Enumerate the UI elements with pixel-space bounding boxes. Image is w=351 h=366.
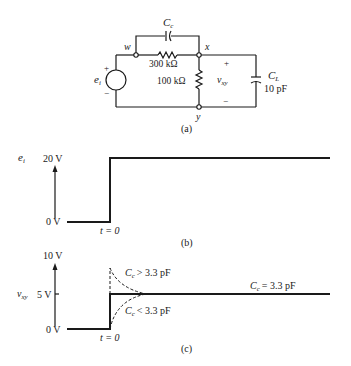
cl-value: 10 pF — [264, 83, 288, 94]
source-plus: + — [104, 63, 109, 73]
wire-cc-right — [171, 36, 199, 53]
resistor-100k-icon — [196, 70, 202, 89]
caption-b: (b) — [181, 237, 193, 249]
caption-c: (c) — [181, 343, 192, 355]
r-series-label: 300 kΩ — [149, 59, 177, 69]
label-cc-under: Cc< 3.3 pF — [125, 305, 171, 318]
figure: + − ei w 300 kΩ Cc x 100 kΩ y — [0, 0, 351, 366]
tick-5v: 5 V — [37, 289, 52, 300]
vout-plus: + — [224, 58, 229, 68]
node-y — [197, 105, 201, 109]
circuit-diagram: + − ei w 300 kΩ Cc x 100 kΩ y — [94, 16, 288, 135]
tick-20v: 20 V — [43, 153, 63, 164]
wire-cc-left — [136, 36, 165, 53]
node-x-label: x — [204, 41, 210, 52]
voltage-source-icon — [106, 70, 126, 90]
node-w — [134, 53, 138, 57]
node-w-label: w — [124, 41, 131, 52]
plot-c: 10 V 5 V vxy 0 V Cc> 3.3 pF Cc< 3.3 pF C… — [17, 250, 330, 355]
y-label-c: vxy — [17, 288, 29, 301]
y-label-b: ei — [18, 151, 25, 165]
arrow-up-icon — [53, 263, 58, 270]
t0-b: t = 0 — [100, 225, 120, 236]
arrow-up-icon — [53, 165, 58, 172]
source-label: ei — [94, 73, 101, 87]
resistor-300k-icon — [158, 52, 177, 58]
t0-c: t = 0 — [100, 332, 120, 343]
cl-label: CL — [268, 69, 279, 83]
source-minus: − — [104, 88, 109, 98]
node-x — [197, 53, 201, 57]
tick-0v-c: 0 V — [46, 324, 61, 335]
r-shunt-label: 100 kΩ — [157, 76, 185, 86]
step-waveform-c — [67, 294, 330, 329]
capacitor-cc-plate2 — [170, 31, 172, 41]
tick-10v: 10 V — [43, 250, 63, 261]
caption-a: (a) — [181, 123, 192, 135]
vout-label: vxy — [217, 74, 229, 87]
vout-minus: − — [223, 96, 228, 106]
label-cc-equal: Cc= 3.3 pF — [250, 280, 296, 293]
plot-b: ei 20 V 0 V t = 0 (b) — [18, 151, 330, 249]
step-waveform-b — [67, 158, 330, 222]
node-y-label: y — [195, 111, 201, 122]
label-cc-over: Cc> 3.3 pF — [125, 267, 171, 280]
tick-0v-b: 0 V — [46, 216, 61, 227]
cc-label: Cc — [163, 16, 174, 30]
